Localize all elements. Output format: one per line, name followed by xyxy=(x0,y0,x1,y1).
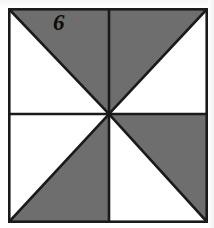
scan-edge-right xyxy=(208,0,214,228)
figure-container: 6 xyxy=(0,0,214,228)
figure-number-label: 6 xyxy=(53,11,65,34)
pinwheel-diagram xyxy=(8,8,208,223)
scan-edge-top xyxy=(0,0,214,8)
